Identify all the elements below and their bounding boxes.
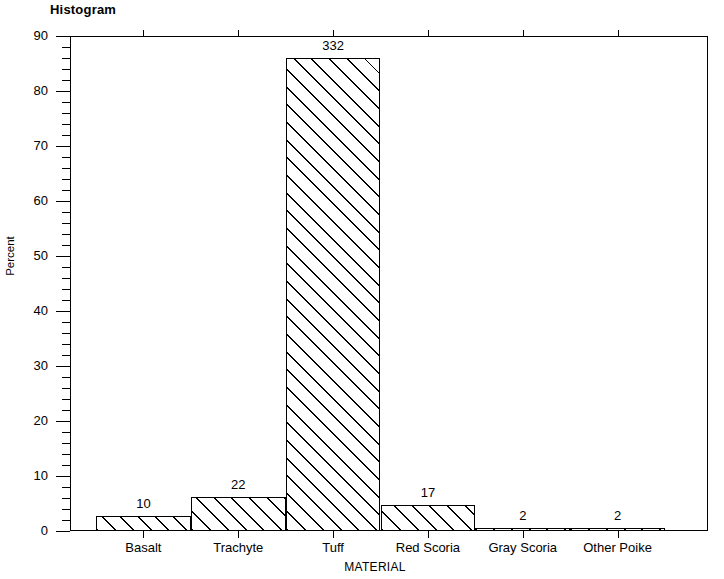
y-minor-tick	[62, 487, 70, 488]
y-minor-tick	[62, 47, 70, 48]
y-minor-tick	[62, 498, 70, 499]
y-tick-label-0: 0	[0, 524, 48, 537]
x-tick	[333, 531, 334, 538]
y-minor-tick	[62, 234, 70, 235]
bar	[286, 58, 381, 531]
y-tick-90	[56, 36, 70, 37]
x-tick-top	[143, 30, 144, 37]
y-minor-tick	[62, 69, 70, 70]
y-minor-tick	[62, 289, 70, 290]
y-minor-tick	[62, 278, 70, 279]
y-tick-label-30: 30	[0, 359, 48, 372]
y-tick-40	[56, 311, 70, 312]
y-tick-60	[56, 201, 70, 202]
y-minor-tick	[62, 399, 70, 400]
x-axis-title: MATERIAL	[0, 560, 724, 574]
y-minor-tick	[62, 135, 70, 136]
y-tick-50	[56, 256, 70, 257]
y-minor-tick	[62, 190, 70, 191]
x-tick	[523, 531, 524, 538]
y-minor-tick	[62, 113, 70, 114]
y-tick-label-70: 70	[0, 139, 48, 152]
y-tick-10	[56, 476, 70, 477]
bar-value-label: 22	[191, 477, 286, 492]
y-tick-label-40: 40	[0, 304, 48, 317]
y-minor-tick	[62, 179, 70, 180]
histogram-figure: Histogram Percent MATERIAL 0102030405060…	[0, 0, 724, 579]
y-tick-30	[56, 366, 70, 367]
x-tick-top	[618, 30, 619, 37]
y-tick-label-10: 10	[0, 469, 48, 482]
y-minor-tick	[62, 443, 70, 444]
y-minor-tick	[62, 333, 70, 334]
bar	[381, 505, 476, 531]
y-tick-label-60: 60	[0, 194, 48, 207]
y-minor-tick	[62, 454, 70, 455]
y-tick-label-90: 90	[0, 29, 48, 42]
y-minor-tick	[62, 410, 70, 411]
y-minor-tick	[62, 520, 70, 521]
x-tick-top	[333, 30, 334, 37]
plot-area	[70, 36, 708, 531]
bar-value-label: 2	[475, 508, 570, 523]
x-tick-top	[523, 30, 524, 37]
bar	[570, 528, 665, 531]
y-minor-tick	[62, 300, 70, 301]
y-minor-tick	[62, 509, 70, 510]
y-minor-tick	[62, 322, 70, 323]
x-tick	[428, 531, 429, 538]
bar-value-label: 332	[286, 38, 381, 53]
x-tick	[238, 531, 239, 538]
x-tick	[143, 531, 144, 538]
x-tick-top	[428, 30, 429, 37]
y-minor-tick	[62, 465, 70, 466]
y-minor-tick	[62, 102, 70, 103]
y-minor-tick	[62, 168, 70, 169]
bar-value-label: 10	[96, 496, 191, 511]
bar-value-label: 17	[381, 485, 476, 500]
y-minor-tick	[62, 212, 70, 213]
y-minor-tick	[62, 223, 70, 224]
y-tick-0	[56, 531, 70, 532]
y-tick-label-20: 20	[0, 414, 48, 427]
y-tick-label-50: 50	[0, 249, 48, 262]
y-tick-20	[56, 421, 70, 422]
y-tick-70	[56, 146, 70, 147]
bar	[191, 497, 286, 531]
x-tick	[618, 531, 619, 538]
y-tick-label-80: 80	[0, 84, 48, 97]
y-minor-tick	[62, 124, 70, 125]
y-minor-tick	[62, 58, 70, 59]
bar	[475, 528, 570, 531]
y-minor-tick	[62, 267, 70, 268]
bar-value-label: 2	[570, 508, 665, 523]
y-minor-tick	[62, 80, 70, 81]
x-axis-title-text: MATERIAL	[344, 560, 406, 574]
y-minor-tick	[62, 344, 70, 345]
y-minor-tick	[62, 432, 70, 433]
y-minor-tick	[62, 245, 70, 246]
chart-title: Histogram	[50, 2, 116, 17]
y-minor-tick	[62, 388, 70, 389]
y-minor-tick	[62, 355, 70, 356]
x-tick-top	[238, 30, 239, 37]
x-category-label: Other Poike	[558, 540, 677, 555]
y-minor-tick	[62, 377, 70, 378]
y-tick-80	[56, 91, 70, 92]
y-minor-tick	[62, 157, 70, 158]
bar	[96, 516, 191, 531]
